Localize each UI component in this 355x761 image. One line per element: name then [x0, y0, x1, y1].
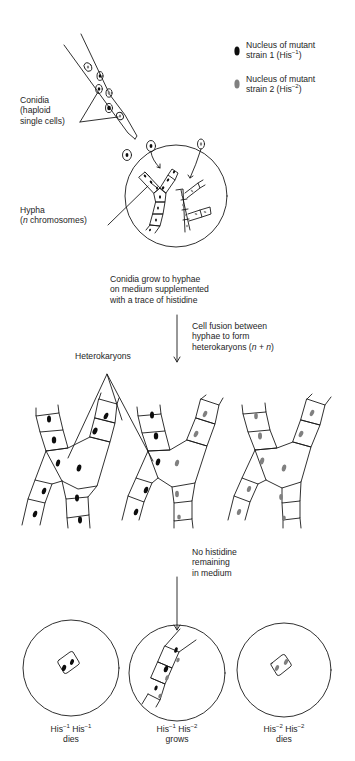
legend-text-suffix: )	[299, 50, 302, 60]
step-line: with a trace of histidine	[110, 295, 209, 305]
step-line: on medium supplemented	[110, 284, 209, 294]
genotype-b: His	[70, 724, 85, 734]
genotype-a: His	[51, 724, 63, 734]
superscript: −1	[85, 723, 92, 729]
label-line: (haploid	[20, 105, 65, 115]
petri-dish-germination	[125, 145, 227, 247]
genotype-b: His	[176, 724, 191, 734]
outcome-his1-his2: His−1 His−2 grows	[137, 724, 217, 745]
heterokaryon-pointer	[68, 374, 153, 461]
free-conidia	[123, 139, 205, 161]
legend-text: Nucleus of mutant	[246, 40, 315, 50]
legend-nucleus-strain2-icon	[234, 80, 239, 89]
genotype-a: His	[157, 724, 169, 734]
label-line: Hypha	[20, 205, 87, 215]
superscript: −2	[298, 723, 305, 729]
legend-item-strain1: Nucleus of mutant strain 1 (His−1)	[246, 40, 315, 61]
superscript: −2	[292, 83, 299, 89]
outcome-his1-his1: His−1 His−1 dies	[31, 724, 111, 745]
outcome-result: grows	[137, 734, 217, 744]
legend-text: strain 2 (His−2)	[246, 84, 315, 94]
step-line: heterokaryons (n + n)	[192, 342, 274, 352]
step-line: hyphae to form	[192, 331, 274, 341]
superscript: −1	[63, 723, 70, 729]
hypha-label: Hypha (n chromosomes)	[20, 205, 87, 226]
step-line: Cell fusion between	[192, 321, 274, 331]
step-line: Conidia grow to hyphae	[110, 274, 209, 284]
heterokaryons-label: Heterokaryons	[75, 351, 131, 361]
heterokaryon-strain1-strain1	[22, 393, 119, 528]
superscript: −1	[169, 723, 176, 729]
genotype-a: His	[264, 724, 276, 734]
genotype: His−1 His−2	[137, 724, 217, 734]
step-line: No histidine	[192, 547, 237, 557]
legend-text-suffix: )	[299, 84, 302, 94]
step-line: remaining	[192, 557, 237, 567]
conidiophore	[64, 34, 137, 139]
step-fusion-text: Cell fusion between hyphae to form heter…	[192, 321, 274, 352]
legend-nucleus-strain1-icon	[234, 47, 239, 56]
outcome-result: dies	[31, 734, 111, 744]
legend-text-prefix: strain 2 (His	[246, 84, 292, 94]
step-no-histidine-text: No histidine remaining in medium	[192, 547, 237, 578]
genotype-b: His	[283, 724, 298, 734]
superscript: −1	[292, 49, 299, 55]
paren: )	[271, 342, 274, 352]
genotype: His−2 His−2	[244, 724, 324, 734]
step-text: heterokaryons (	[192, 342, 252, 352]
label-line: single cells)	[20, 116, 65, 126]
germination-arrows	[151, 149, 201, 178]
arrow-no-histidine	[174, 577, 180, 630]
dish-his1-his2	[129, 625, 225, 721]
outcome-his2-his2: His−2 His−2 dies	[244, 724, 324, 745]
legend-item-strain2: Nucleus of mutant strain 2 (His−2)	[246, 74, 315, 95]
growing-hypha	[142, 629, 196, 707]
dish-his2-his2	[237, 623, 331, 717]
step-grow-text: Conidia grow to hyphae on medium supplem…	[110, 274, 209, 305]
conidia-nuclei	[87, 65, 121, 117]
hypha-pointer	[108, 186, 148, 225]
label-line: (n chromosomes)	[20, 215, 87, 225]
heterokaryon-strain1-strain2	[122, 395, 223, 528]
heterokaryon-strain2-strain2	[228, 394, 331, 528]
dish-his1-his1	[23, 620, 119, 716]
arrow-fusion	[174, 315, 180, 362]
legend-text-prefix: strain 1 (His	[246, 50, 292, 60]
label-line: Conidia	[20, 95, 65, 105]
legend-text: Nucleus of mutant	[246, 74, 315, 84]
superscript: −2	[191, 723, 198, 729]
step-line: in medium	[192, 568, 237, 578]
hypha-strain1	[139, 169, 178, 233]
label-rest: chromosomes)	[28, 215, 87, 225]
genotype: His−1 His−1	[31, 724, 111, 734]
hypha-strain2	[176, 180, 211, 232]
conidia-in-tube	[82, 61, 124, 121]
outcome-result: dies	[244, 734, 324, 744]
superscript: −2	[276, 723, 283, 729]
plus: +	[257, 342, 267, 352]
conidia-label: Conidia (haploid single cells)	[20, 95, 65, 126]
legend-text: strain 1 (His−1)	[246, 50, 315, 60]
